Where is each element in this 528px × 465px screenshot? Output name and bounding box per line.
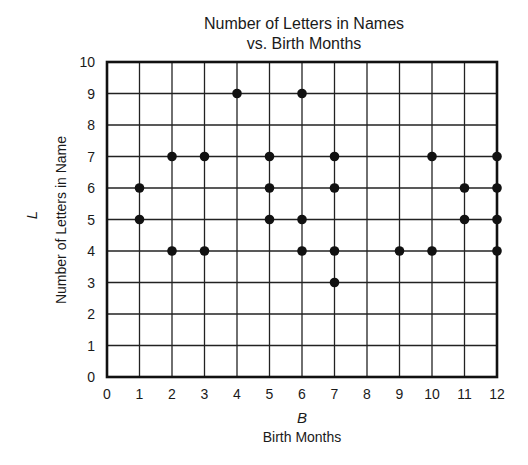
- x-tick-label: 12: [489, 386, 505, 402]
- data-point: [427, 246, 437, 256]
- y-tick-label: 6: [87, 180, 95, 196]
- data-point: [460, 215, 470, 225]
- data-point: [330, 278, 340, 288]
- data-point: [330, 152, 340, 162]
- x-tick-label: 7: [331, 386, 339, 402]
- y-tick-label: 7: [87, 149, 95, 165]
- data-point: [200, 152, 210, 162]
- data-point: [265, 183, 275, 193]
- x-tick-label: 10: [424, 386, 440, 402]
- data-point: [167, 152, 177, 162]
- x-tick-label: 6: [298, 386, 306, 402]
- y-tick-label: 1: [87, 338, 95, 354]
- y-tick-label: 9: [87, 86, 95, 102]
- data-point: [167, 246, 177, 256]
- data-point: [297, 89, 307, 99]
- x-tick-label: 8: [363, 386, 371, 402]
- x-axis-ticks: 0123456789101112: [103, 386, 505, 402]
- y-tick-label: 3: [87, 275, 95, 291]
- y-tick-label: 8: [87, 117, 95, 133]
- x-tick-label: 9: [396, 386, 404, 402]
- data-point: [297, 215, 307, 225]
- data-point: [460, 183, 470, 193]
- data-point: [492, 215, 502, 225]
- data-point: [200, 246, 210, 256]
- y-tick-label: 5: [87, 212, 95, 228]
- data-point: [492, 183, 502, 193]
- x-tick-label: 4: [233, 386, 241, 402]
- data-point: [135, 215, 145, 225]
- data-point: [492, 246, 502, 256]
- y-axis-ticks: 012345678910: [79, 54, 95, 385]
- data-point: [135, 183, 145, 193]
- data-point: [265, 215, 275, 225]
- y-tick-label: 0: [87, 369, 95, 385]
- data-point: [297, 246, 307, 256]
- data-point: [265, 152, 275, 162]
- scatter-plot: 0123456789101112 012345678910 B Birth Mo…: [0, 0, 528, 465]
- y-tick-label: 4: [87, 243, 95, 259]
- y-axis-variable: L: [23, 211, 40, 219]
- y-tick-label: 2: [87, 306, 95, 322]
- data-point: [395, 246, 405, 256]
- data-point: [492, 152, 502, 162]
- x-tick-label: 0: [103, 386, 111, 402]
- x-axis-variable: B: [297, 409, 307, 426]
- x-tick-label: 1: [136, 386, 144, 402]
- x-tick-label: 5: [266, 386, 274, 402]
- data-point: [330, 246, 340, 256]
- y-axis-label: Number of Letters in Name: [53, 136, 69, 304]
- x-tick-label: 11: [457, 386, 472, 402]
- x-tick-label: 2: [168, 386, 176, 402]
- data-point: [330, 183, 340, 193]
- x-axis-label: Birth Months: [263, 429, 342, 445]
- data-point: [232, 89, 242, 99]
- data-point: [427, 152, 437, 162]
- x-tick-label: 3: [201, 386, 209, 402]
- y-tick-label: 10: [79, 54, 95, 70]
